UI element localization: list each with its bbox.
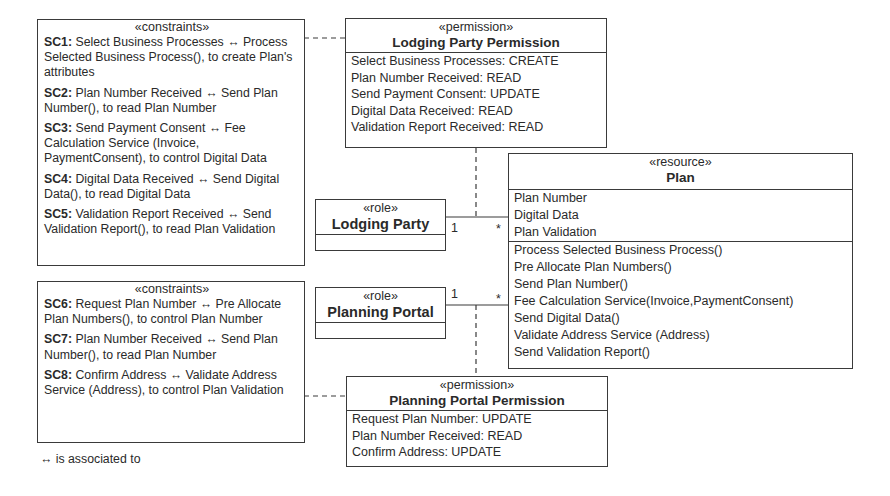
permission-stereotype: «permission»	[346, 20, 606, 35]
constraint-sc2: SC2: Plan Number Received ↔ Send Plan Nu…	[44, 86, 300, 116]
permission-title: Lodging Party Permission	[346, 35, 606, 51]
constraint-sc6: SC6: Request Plan Number ↔ Pre Allocate …	[44, 297, 300, 327]
permission-entry: Select Business Processes: CREATE	[351, 53, 606, 70]
multiplicity-planning-plan: *	[496, 292, 501, 306]
constraint-sc4: SC4: Digital Data Received ↔ Send Digita…	[44, 172, 300, 202]
permission-entries: Request Plan Number: UPDATE Plan Number …	[347, 410, 607, 461]
resource-operation: Fee Calculation Service(Invoice,PaymentC…	[514, 293, 852, 310]
permission-entry: Validation Report Received: READ	[351, 119, 606, 136]
role-title: Planning Portal	[316, 304, 445, 320]
constraints-box-top: «constraints» SC1: Select Business Proce…	[37, 19, 305, 266]
permission-entry: Confirm Address: UPDATE	[352, 444, 607, 461]
permission-entry: Send Payment Consent: UPDATE	[351, 86, 606, 103]
resource-attribute: Plan Number	[514, 190, 852, 207]
permission-entry: Plan Number Received: READ	[351, 70, 606, 87]
permission-entries: Select Business Processes: CREATE Plan N…	[346, 52, 606, 136]
multiplicity-planning-role: 1	[451, 287, 458, 301]
resource-operation: Send Digital Data()	[514, 310, 852, 327]
permission-entry: Digital Data Received: READ	[351, 103, 606, 120]
constraint-sc1: SC1: Select Business Processes ↔ Process…	[44, 35, 300, 81]
resource-operation: Process Selected Business Process()	[514, 242, 852, 259]
resource-attributes: Plan Number Digital Data Plan Validation	[509, 189, 852, 241]
constraint-sc3: SC3: Send Payment Consent ↔ Fee Calculat…	[44, 121, 300, 167]
constraint-sc8: SC8: Confirm Address ↔ Validate Address …	[44, 368, 300, 398]
resource-operation: Validate Address Service (Address)	[514, 327, 852, 344]
permission-stereotype: «permission»	[347, 378, 607, 393]
planning-portal-permission-box: «permission» Planning Portal Permission …	[346, 376, 608, 467]
constraints-box-bottom: «constraints» SC6: Request Plan Number ↔…	[37, 281, 305, 443]
resource-attribute: Plan Validation	[514, 224, 852, 241]
resource-attribute: Digital Data	[514, 207, 852, 224]
multiplicity-lodging-plan: *	[496, 222, 501, 236]
resource-operation: Pre Allocate Plan Numbers()	[514, 259, 852, 276]
resource-plan-box: «resource» Plan Plan Number Digital Data…	[508, 153, 853, 369]
role-empty-compartment	[316, 322, 445, 339]
resource-title: Plan	[509, 170, 852, 186]
resource-operation: Send Validation Report()	[514, 344, 852, 361]
lodging-party-permission-box: «permission» Lodging Party Permission Se…	[345, 18, 607, 148]
constraint-sc5: SC5: Validation Report Received ↔ Send V…	[44, 207, 300, 237]
permission-entry: Plan Number Received: READ	[352, 428, 607, 445]
legend-text: ↔ is associated to	[40, 452, 140, 466]
resource-operations: Process Selected Business Process() Pre …	[509, 241, 852, 361]
resource-operation: Send Plan Number()	[514, 276, 852, 293]
resource-stereotype: «resource»	[509, 155, 852, 170]
role-title: Lodging Party	[316, 216, 445, 232]
role-lodging-party-box: «role» Lodging Party	[315, 199, 446, 251]
permission-entry: Request Plan Number: UPDATE	[352, 411, 607, 428]
role-planning-portal-box: «role» Planning Portal	[315, 287, 446, 339]
multiplicity-lodging-role: 1	[451, 221, 458, 235]
role-empty-compartment	[316, 234, 445, 251]
constraints-stereotype: «constraints»	[44, 20, 300, 35]
role-stereotype: «role»	[316, 289, 445, 304]
constraints-stereotype: «constraints»	[44, 282, 300, 297]
permission-title: Planning Portal Permission	[347, 393, 607, 409]
constraint-sc7: SC7: Plan Number Received ↔ Send Plan Nu…	[44, 332, 300, 362]
role-stereotype: «role»	[316, 201, 445, 216]
